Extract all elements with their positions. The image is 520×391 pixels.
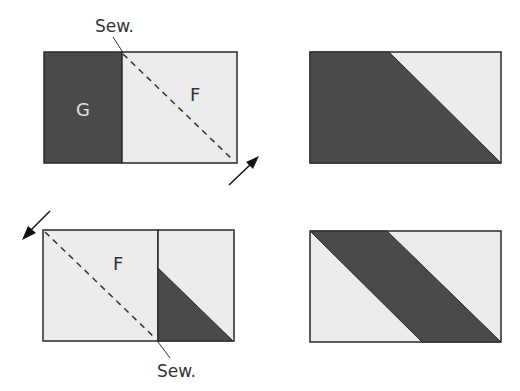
sew-label-bottom: Sew. xyxy=(157,361,196,381)
sew-label-top: Sew. xyxy=(95,16,134,36)
sew-leader-bottom xyxy=(158,342,170,358)
sew-leader xyxy=(113,37,122,51)
label-g: G xyxy=(76,99,90,120)
step1-result xyxy=(310,52,501,163)
step2-result xyxy=(310,231,501,342)
label-f-top: F xyxy=(190,84,200,105)
step2-unit: Sew. F xyxy=(43,230,234,381)
quilting-diagram: Sew. G F Sew. F xyxy=(0,0,520,391)
label-f-bottom: F xyxy=(113,253,123,274)
step1-unit: Sew. G F xyxy=(44,16,237,163)
